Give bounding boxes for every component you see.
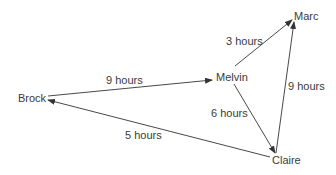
node-marc: Marc [294, 10, 318, 22]
node-brock: Brock [18, 92, 46, 104]
edge-label-brock-melvin: 9 hours [106, 74, 143, 86]
edge-label-melvin-claire: 6 hours [211, 107, 248, 119]
node-claire: Claire [272, 154, 301, 166]
edge-label-melvin-marc: 3 hours [226, 35, 263, 47]
node-melvin: Melvin [216, 71, 248, 83]
edge-label-claire-brock: 5 hours [125, 129, 162, 141]
edge-label-claire-marc: 9 hours [288, 80, 325, 92]
graph-edges [0, 0, 336, 175]
